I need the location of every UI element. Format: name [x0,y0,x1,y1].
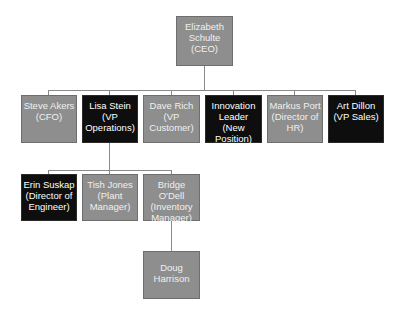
node-label: Bridge O'Dell (Inventory Manager) [144,179,199,223]
node-label: Elizabeth Schulte (CEO) [184,21,225,54]
connector-inv-mgr-down [171,220,172,251]
node-innovation-leader[interactable]: Innovation Leader (New Position) [205,95,262,143]
node-plant-manager[interactable]: Tish Jones (Plant Manager) [82,174,138,221]
node-label: Steve Akers (CFO) [23,100,76,122]
node-vp-customer[interactable]: Dave Rich (VP Customer) [143,95,200,143]
node-label: Art Dillon (VP Sales) [332,100,379,122]
node-label: Innovation Leader (New Position) [206,100,261,144]
connector-vp-ops-down [109,143,110,170]
node-label: Markus Port (Director of HR) [268,100,321,133]
node-doug-harrison[interactable]: Doug Harrison [143,251,200,299]
node-director-engineer[interactable]: Erin Suskap (Director of Engineer) [21,174,77,221]
node-director-hr[interactable]: Markus Port (Director of HR) [267,95,323,143]
node-label: Tish Jones (Plant Manager) [86,179,134,212]
node-label: Doug Harrison [153,262,191,284]
node-vp-sales[interactable]: Art Dillon (VP Sales) [328,95,384,143]
node-label: Dave Rich (VP Customer) [148,100,194,133]
node-vp-operations[interactable]: Lisa Stein (VP Operations) [82,95,138,143]
node-ceo[interactable]: Elizabeth Schulte (CEO) [176,16,233,66]
connector-ceo-down [204,65,205,90]
node-cfo[interactable]: Steve Akers (CFO) [21,95,77,143]
connector-level1-bar [48,90,356,91]
connector-level2-bar [48,170,172,171]
node-inventory-manager[interactable]: Bridge O'Dell (Inventory Manager) [143,174,200,221]
node-label: Erin Suskap (Director of Engineer) [22,179,75,212]
node-label: Lisa Stein (VP Operations) [84,100,136,133]
